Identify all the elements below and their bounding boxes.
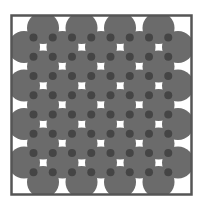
contact-dot [164,130,172,138]
contact-dot [164,168,172,176]
contact-dot [68,168,76,176]
contact-dot [30,168,38,176]
lattice-canvas [0,0,202,201]
contact-dot [87,91,95,99]
contact-dot [30,149,38,157]
contact-dot [68,53,76,61]
contact-dot [49,53,57,61]
contact-dot [107,111,115,119]
contact-dot [164,149,172,157]
contact-dot [126,34,134,42]
contact-dot [49,72,57,80]
contact-dot [145,168,153,176]
contact-dot [87,34,95,42]
contact-dot [126,91,134,99]
contact-dot [164,34,172,42]
contact-dot [107,91,115,99]
contact-dot [87,130,95,138]
contact-dot [30,34,38,42]
contact-dot [145,111,153,119]
contact-dot [164,91,172,99]
contact-dot [126,111,134,119]
contact-dot [68,130,76,138]
contact-dot [164,53,172,61]
contact-dot [107,149,115,157]
contact-dot [87,168,95,176]
contact-dot [68,34,76,42]
contact-dot [49,130,57,138]
contact-dot [107,130,115,138]
contact-dot [145,130,153,138]
contact-dot [68,111,76,119]
contact-dot [107,72,115,80]
contact-dot [145,53,153,61]
contact-dot [30,91,38,99]
contact-dot [145,149,153,157]
contact-dot [68,149,76,157]
contact-dot [145,91,153,99]
contact-dot [126,168,134,176]
contact-dot [87,72,95,80]
contact-dot [126,149,134,157]
contact-dot [30,130,38,138]
contact-dot [164,111,172,119]
contact-dot [30,53,38,61]
contact-dot [126,72,134,80]
contact-dot [107,34,115,42]
contact-dot [30,72,38,80]
contact-dot [49,111,57,119]
contact-dot [164,72,172,80]
contact-dot [87,149,95,157]
contact-dot [49,34,57,42]
contact-dot [107,53,115,61]
lattice-diagram [0,0,202,201]
contact-dot [126,53,134,61]
contact-dot [87,53,95,61]
contact-dot [49,91,57,99]
contact-dot [145,72,153,80]
contact-dot [68,91,76,99]
contact-dot [30,111,38,119]
contact-dot [126,130,134,138]
contact-dot [87,111,95,119]
contact-dot [49,149,57,157]
contact-dot [107,168,115,176]
contact-dot [145,34,153,42]
contact-dot [49,168,57,176]
contact-dot [68,72,76,80]
